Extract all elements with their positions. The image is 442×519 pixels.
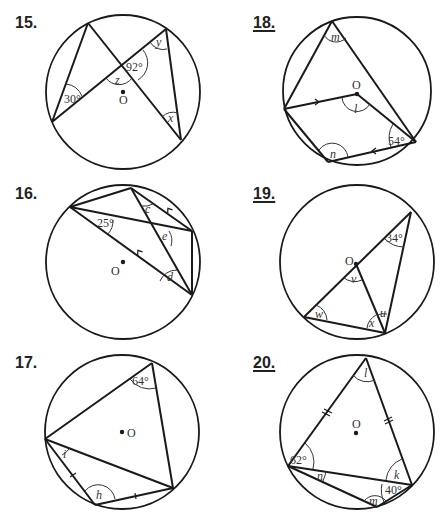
center-label-o: O [127,426,136,440]
angle-label-i: i [63,447,66,461]
center-label-o: O [352,417,361,431]
center-label-o: O [352,78,361,92]
angle-label-h: h [96,488,102,502]
angle-label-n: n [317,469,323,483]
diagram-17: 64° i h O [45,355,199,509]
diagram-15: 30° 92° z y x O [46,15,200,169]
diagram-18: m l n 54° O [283,17,431,165]
angle-label-64: 64° [132,374,149,388]
angle-label-n: n [330,147,336,161]
angle-label-30: 30° [64,92,81,106]
angle-label-40: 40° [385,483,402,497]
geometry-diagrams: 30° 92° z y x O m l n 54° O [0,0,442,519]
angle-label-w: w [315,307,323,321]
angle-label-m: m [369,494,378,508]
angle-label-34: 34° [386,231,403,245]
angle-label-e: e [162,229,168,243]
angle-label-92: 92° [126,60,143,74]
angle-label-62: 62° [290,453,307,467]
center-label-o: O [345,254,354,268]
angle-label-25: 25° [97,216,114,230]
angle-label-k: k [394,468,400,482]
diagram-20: l 62° n k 40° m O [280,355,434,509]
diagram-19: 34° v w x u O [280,185,434,339]
angle-label-u: u [380,306,386,320]
diagram-16: 25° c e d O [46,185,200,339]
angle-label-x: x [167,111,174,125]
angle-label-y: y [155,35,162,49]
angle-label-l: l [364,366,368,380]
angle-label-z: z [114,73,120,87]
angle-label-54: 54° [388,134,405,148]
angle-label-d: d [167,270,174,284]
angle-label-x: x [368,316,375,330]
angle-label-l: l [354,102,358,116]
angle-label-v: v [351,272,357,286]
angle-label-c: c [145,202,151,216]
angle-label-m: m [331,30,340,44]
center-label-o: O [111,264,120,278]
center-label-o: O [119,93,128,107]
